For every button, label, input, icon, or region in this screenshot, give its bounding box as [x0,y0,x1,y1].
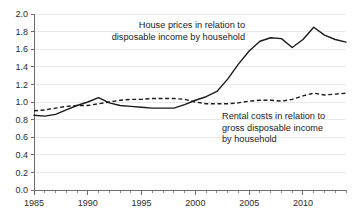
chart-container: 0.00.20.40.60.81.01.21.41.61.82.0 198519… [0,0,352,221]
x-tick-label: 2010 [293,198,313,208]
chart-annotations: House prices in relation todisposable in… [112,20,325,144]
x-tick-label: 2005 [239,198,259,208]
y-tick-label: 1.2 [15,80,28,90]
y-tick-label: 2.0 [15,9,28,19]
y-tick-label: 1.6 [15,44,28,54]
y-tick-label: 0.6 [15,132,28,142]
x-tick-label: 2000 [185,198,205,208]
y-tick-label: 1.8 [15,27,28,37]
y-tick-label: 0.0 [15,185,28,195]
y-tick-label: 0.4 [15,150,28,160]
house-prices-annotation: House prices in relation todisposable in… [112,20,245,42]
x-axis-ticks: 198519901995200020052010 [24,190,346,208]
y-axis-ticks: 0.00.20.40.60.81.01.21.41.61.82.0 [15,9,34,195]
y-tick-label: 0.8 [15,115,28,125]
y-tick-label: 0.2 [15,168,28,178]
x-tick-label: 1995 [132,198,152,208]
x-tick-label: 1990 [78,198,98,208]
line-chart: 0.00.20.40.60.81.01.21.41.61.82.0 198519… [0,0,352,221]
y-tick-label: 1.4 [15,62,28,72]
rental-costs-annotation: Rental costs in relation togross disposa… [222,111,325,144]
x-tick-label: 1985 [24,198,44,208]
y-tick-label: 1.0 [15,97,28,107]
